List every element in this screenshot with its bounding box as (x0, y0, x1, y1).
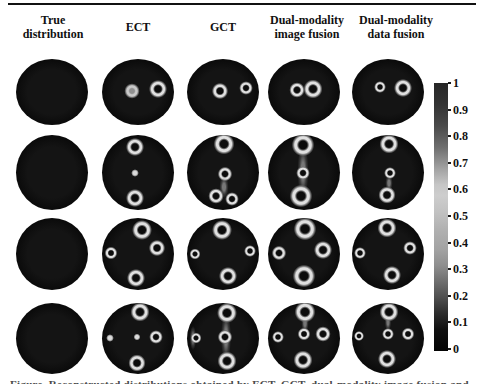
colorbar-tick-label: 0.9 (453, 103, 480, 117)
phantom-disc-r2-c3 (187, 135, 259, 210)
column-header-gct: GCT (210, 8, 236, 46)
column-header-data-fusion: Dual-modality data fusion (359, 8, 433, 46)
phantom-disc-r3-c2 (102, 218, 174, 290)
inclusion-blob (290, 135, 315, 158)
phantom-disc-r4-c5 (352, 303, 424, 374)
inclusion-blob (217, 329, 233, 345)
column-header-image-fusion: Dual-modality image fusion (270, 8, 344, 46)
inclusion-blob (292, 350, 313, 371)
inclusion-blob (189, 248, 201, 260)
inclusion-blob (378, 186, 397, 205)
inclusion-blob (374, 81, 387, 94)
inclusion-blob (292, 264, 317, 289)
colorbar-tick-label: 1 (453, 76, 480, 90)
colorbar-tick-label: 0.2 (453, 289, 480, 303)
colorbar-tick-label: 0.8 (453, 129, 480, 143)
colorbar-tick (448, 321, 451, 323)
inclusion-blob (354, 330, 365, 341)
phantom-disc-r3-c3 (187, 218, 259, 290)
inclusion-blob (382, 327, 395, 340)
colorbar-tick (448, 242, 451, 244)
inclusion-blob (378, 303, 399, 323)
inclusion-blob (271, 245, 287, 261)
colorbar: 10.90.80.70.60.50.40.30.20.10 (434, 83, 480, 351)
inclusion-blob (126, 268, 146, 288)
colorbar-tick (448, 268, 451, 270)
inclusion-blob (303, 78, 324, 99)
phantom-disc-r3-c5 (352, 218, 424, 290)
inclusion-blob (353, 247, 366, 260)
phantom-disc-r1-c1 (16, 59, 88, 125)
inclusion-blob (294, 303, 317, 324)
phantom-disc-r2-c4 (268, 135, 340, 210)
inclusion-blob (128, 353, 147, 372)
inclusion-blob (292, 218, 317, 241)
inclusion-blob (133, 333, 141, 341)
colorbar-tick-label: 0.1 (453, 315, 480, 329)
inclusion-blob (148, 79, 168, 99)
inclusion-blob (131, 219, 153, 241)
inclusion-blob (148, 239, 166, 257)
phantom-disc-r1-c5 (352, 59, 424, 125)
colorbar-tick (448, 109, 451, 111)
phantom-disc-r2-c1 (16, 135, 88, 210)
colorbar-tick-label: 0.3 (453, 262, 480, 276)
inclusion-blob (379, 135, 400, 155)
inclusion-blob (213, 135, 236, 156)
colorbar-tick (448, 295, 451, 297)
inclusion-blob (272, 330, 285, 343)
inclusion-blob (296, 165, 311, 180)
inclusion-blob (382, 265, 402, 285)
inclusion-blob (313, 240, 333, 260)
inclusion-blob (377, 349, 397, 369)
inclusion-blob (239, 81, 254, 96)
inclusion-blob (218, 266, 238, 286)
phantom-disc-r2-c2 (102, 135, 174, 210)
figure-caption-cropped: Figure. Reconstructed distributions obta… (10, 378, 472, 384)
colorbar-tick (448, 135, 451, 137)
inclusion-blob (104, 246, 118, 260)
inclusion-blob (124, 83, 141, 100)
inclusion-blob (105, 334, 114, 343)
inclusion-blob (297, 327, 311, 341)
inclusion-blob (216, 351, 237, 372)
inclusion-blob (211, 82, 229, 100)
phantom-disc-r1-c4 (268, 59, 340, 125)
phantom-disc-r4-c3 (187, 303, 259, 374)
phantom-disc-r1-c3 (187, 59, 259, 125)
colorbar-gradient (434, 83, 448, 351)
colorbar-tick (448, 82, 451, 84)
phantom-disc-r3-c4 (268, 218, 340, 290)
inclusion-blob (131, 168, 140, 177)
phantom-disc-r1-c2 (102, 59, 174, 125)
inclusion-blob (216, 303, 238, 325)
column-header-ect: ECT (126, 8, 151, 46)
inclusion-blob (403, 241, 418, 256)
colorbar-tick-label: 0.7 (453, 156, 480, 170)
phantom-disc-r4-c4 (268, 303, 340, 374)
figure-page: True distribution ECT GCT Dual-modality … (0, 0, 481, 384)
colorbar-tick-label: 0 (453, 342, 480, 356)
inclusion-blob (207, 188, 224, 205)
inclusion-blob (401, 327, 415, 341)
inclusion-blob (125, 137, 145, 157)
inclusion-blob (393, 78, 413, 98)
inclusion-blob (211, 219, 233, 241)
colorbar-tick-label: 0.5 (453, 209, 480, 223)
phantom-disc-r4-c2 (102, 303, 174, 374)
inclusion-blob (384, 166, 397, 179)
inclusion-blob (130, 303, 151, 323)
colorbar-tick (448, 162, 451, 164)
inclusion-blob (190, 332, 202, 344)
phantom-disc-r2-c5 (352, 135, 424, 210)
colorbar-tick (448, 188, 451, 190)
colorbar-tick-label: 0.6 (453, 182, 480, 196)
inclusion-blob (376, 218, 397, 239)
top-rule (8, 3, 476, 5)
inclusion-blob (224, 192, 239, 207)
phantom-disc-r4-c1 (16, 303, 88, 374)
inclusion-blob (149, 329, 164, 344)
colorbar-tick (448, 215, 451, 217)
inclusion-blob (244, 245, 257, 258)
inclusion-blob (289, 184, 314, 209)
